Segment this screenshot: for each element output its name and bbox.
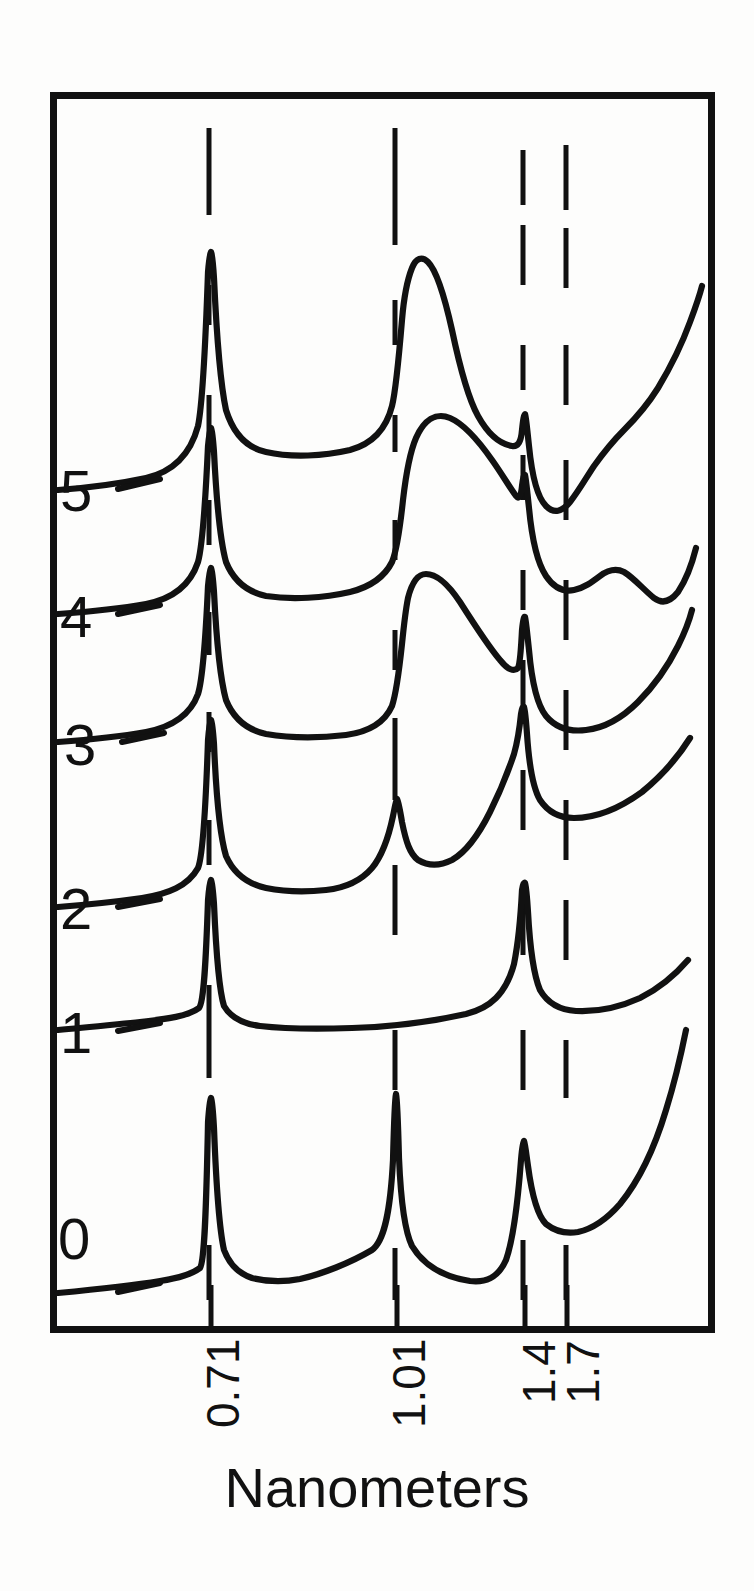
leader-1 (118, 1023, 160, 1031)
x-tick-label-071: 0.71 (196, 1338, 250, 1428)
trace-label-1: 1 (60, 1004, 91, 1062)
x-tick-label-17: 1.7 (556, 1340, 610, 1404)
trace-label-3: 3 (64, 716, 95, 774)
label-leaders-layer (0, 0, 754, 1591)
trace-label-5: 5 (60, 462, 91, 520)
leader-4 (118, 605, 160, 614)
x-tick-label-101: 1.01 (382, 1338, 436, 1428)
leader-2 (118, 899, 160, 907)
leader-5 (118, 479, 160, 489)
trace-label-0: 0 (58, 1210, 89, 1268)
leader-3 (122, 733, 164, 742)
leader-0 (118, 1283, 160, 1292)
x-axis-title: Nanometers (0, 1455, 754, 1520)
trace-label-4: 4 (60, 588, 91, 646)
diffraction-figure: 5 4 3 2 1 0 0.71 1.01 1.4 1.7 Nanometers (0, 0, 754, 1591)
trace-label-2: 2 (60, 880, 91, 938)
